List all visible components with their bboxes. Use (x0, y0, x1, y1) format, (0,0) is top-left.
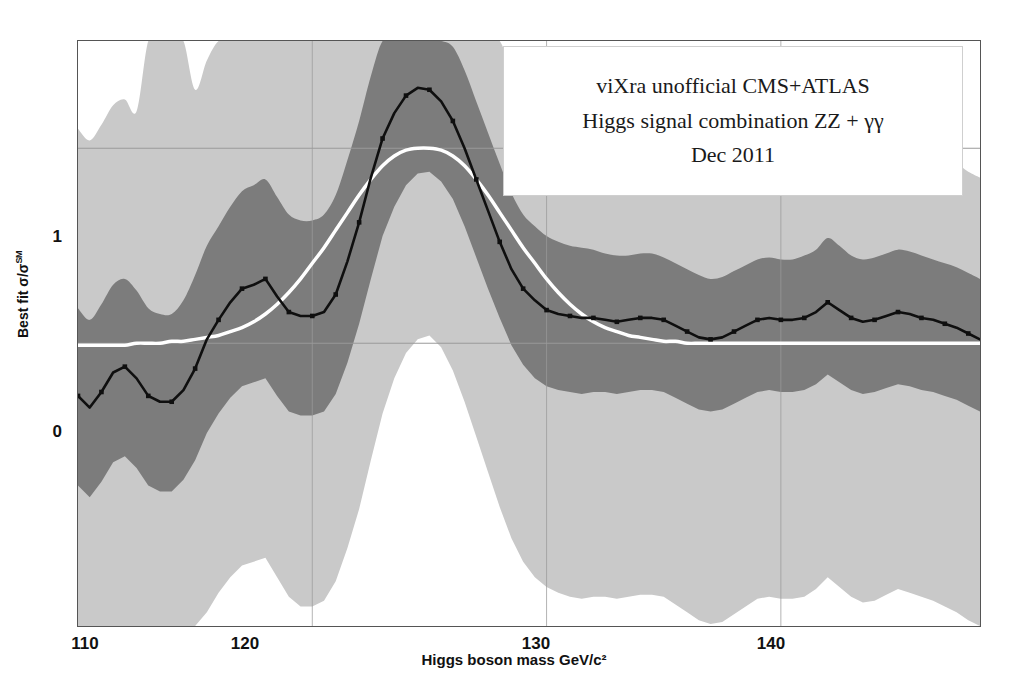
data-point-marker (825, 300, 830, 305)
data-point-marker (78, 394, 80, 399)
data-point-marker (263, 277, 268, 282)
data-point-marker (146, 394, 151, 399)
data-point-marker (755, 318, 760, 323)
data-point-marker (497, 240, 502, 245)
data-point-marker (427, 87, 432, 92)
data-point-marker (99, 390, 104, 395)
x-axis-title: Higgs boson mass GeV/c² (0, 651, 1028, 668)
legend-box: viXra unofficial CMS+ATLAS Higgs signal … (503, 46, 963, 196)
data-point-marker (310, 314, 315, 319)
data-point-marker (521, 286, 526, 291)
data-point-marker (661, 318, 666, 323)
data-point-marker (802, 316, 807, 321)
data-point-marker (287, 310, 292, 315)
data-point-marker (240, 286, 245, 291)
legend-line-1: viXra unofficial CMS+ATLAS (596, 73, 870, 99)
data-point-marker (404, 93, 409, 98)
data-point-marker (708, 337, 713, 342)
data-point-marker (333, 292, 338, 297)
data-point-marker (779, 318, 784, 323)
data-point-marker (169, 399, 174, 404)
data-point-marker (966, 331, 971, 336)
data-point-marker (919, 316, 924, 321)
data-point-marker (615, 320, 620, 325)
data-point-marker (638, 316, 643, 321)
y-axis-title: Best fit σ/σSM (14, 251, 31, 338)
legend-line-3: Dec 2011 (691, 142, 775, 168)
y-axis-title-superscript: SM (14, 251, 24, 264)
y-axis-title-text: Best fit σ/σ (15, 264, 31, 338)
data-point-marker (193, 366, 198, 371)
data-point-marker (380, 136, 385, 141)
data-point-marker (849, 316, 854, 321)
data-point-marker (896, 310, 901, 315)
data-point-marker (685, 329, 690, 334)
data-point-marker (591, 316, 596, 321)
data-point-marker (123, 364, 128, 369)
legend-line-2: Higgs signal combination ZZ + γγ (582, 108, 883, 134)
data-point-marker (732, 329, 737, 334)
data-point-marker (943, 321, 948, 326)
data-point-marker (216, 318, 221, 323)
data-point-marker (357, 220, 362, 225)
data-point-marker (872, 318, 877, 323)
y-tick-label-0: 0 (40, 422, 62, 442)
y-tick-label-1: 1 (40, 227, 62, 247)
data-point-marker (474, 177, 479, 182)
data-point-marker (544, 308, 549, 313)
data-point-marker (568, 314, 573, 319)
data-point-marker (451, 119, 456, 124)
chart-figure: Best fit σ/σSM 1 0 110 120 130 140 Higgs… (0, 0, 1028, 696)
